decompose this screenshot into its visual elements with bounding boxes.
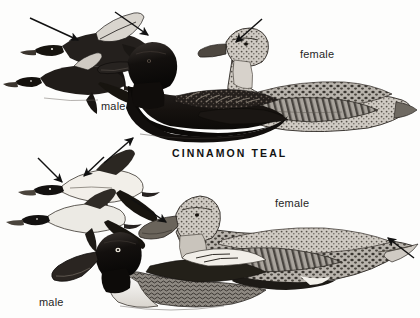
label-male-northern-shoveler: male xyxy=(39,297,64,308)
field-guide-plate: male female female male CINNAMON TEAL xyxy=(0,0,420,318)
label-female-northern-shoveler: female xyxy=(275,198,309,209)
label-female-cinnamon-teal: female xyxy=(300,49,334,60)
label-male-cinnamon-teal: male xyxy=(101,101,126,112)
text-layer: male female female male CINNAMON TEAL xyxy=(0,0,420,318)
species-caption: CINNAMON TEAL xyxy=(172,148,287,159)
